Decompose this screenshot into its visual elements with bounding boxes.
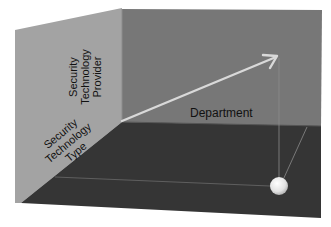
- svg-text:Security: Security: [67, 57, 79, 97]
- horizontal-axis-label: Department: [190, 106, 253, 120]
- cube-diagram: Security Technology Provider Security Te…: [0, 0, 331, 227]
- svg-text:Technology: Technology: [79, 49, 91, 105]
- svg-text:Provider: Provider: [91, 56, 103, 97]
- data-point: [270, 177, 288, 195]
